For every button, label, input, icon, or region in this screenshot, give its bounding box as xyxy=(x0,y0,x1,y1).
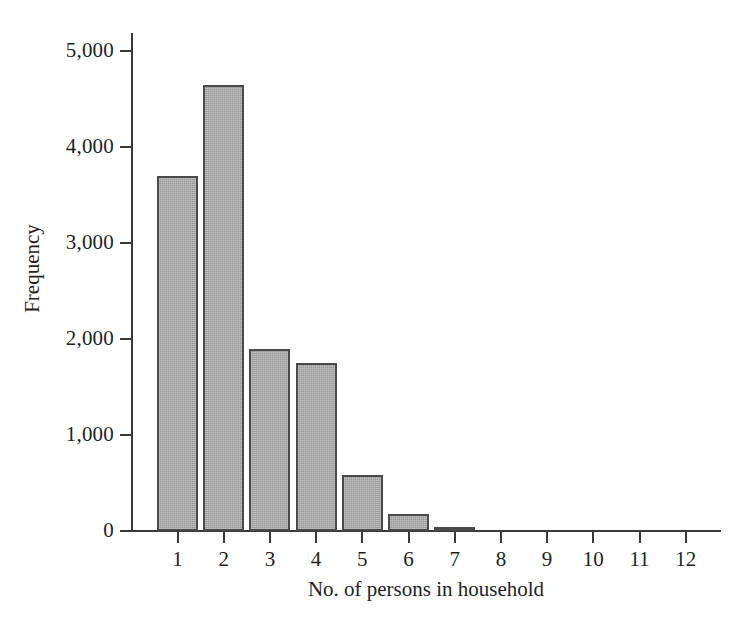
y-axis-tick-label: 2,000 xyxy=(0,328,114,349)
x-axis-tick xyxy=(223,532,225,543)
x-axis-tick-label: 2 xyxy=(199,548,249,570)
y-axis-tick xyxy=(120,146,131,148)
x-axis-tick-label: 7 xyxy=(430,548,480,570)
y-axis-tick xyxy=(120,242,131,244)
y-axis-tick xyxy=(120,434,131,436)
y-axis-tick-label: 1,000 xyxy=(0,424,114,445)
x-axis-tick-label: 8 xyxy=(476,548,526,570)
y-axis-tick-label: 5,000 xyxy=(0,40,114,61)
x-axis-tick-label: 12 xyxy=(661,548,711,570)
x-axis-tick xyxy=(315,532,317,543)
x-axis-tick xyxy=(454,532,456,543)
y-axis-tick-label: 4,000 xyxy=(0,136,114,157)
x-axis-tick xyxy=(408,532,410,543)
x-axis-title: No. of persons in household xyxy=(131,578,721,600)
x-axis-tick xyxy=(546,532,548,543)
x-axis-tick-label: 1 xyxy=(153,548,203,570)
y-axis-title: Frequency xyxy=(22,199,43,339)
x-axis-tick xyxy=(177,532,179,543)
bar xyxy=(296,363,337,531)
y-axis-tick xyxy=(120,338,131,340)
y-axis-tick xyxy=(120,530,131,532)
y-axis-tick-label: 0 xyxy=(0,520,114,541)
x-axis-tick-label: 9 xyxy=(522,548,572,570)
bar xyxy=(249,349,290,531)
x-axis-tick xyxy=(685,532,687,543)
x-axis-tick xyxy=(361,532,363,543)
bar xyxy=(157,176,198,531)
frequency-bar-chart: 01,0002,0003,0004,0005,000 Frequency 123… xyxy=(0,0,733,621)
y-axis-tick-labels: 01,0002,0003,0004,0005,000 xyxy=(0,0,114,621)
x-axis-tick xyxy=(500,532,502,543)
x-axis-tick xyxy=(592,532,594,543)
x-axis-tick xyxy=(639,532,641,543)
y-axis-line xyxy=(131,33,133,532)
bar xyxy=(388,514,429,531)
x-axis-tick-label: 4 xyxy=(291,548,341,570)
x-axis-tick-label: 10 xyxy=(568,548,618,570)
x-axis-tick-label: 11 xyxy=(615,548,665,570)
y-axis-tick-label: 3,000 xyxy=(0,232,114,253)
x-axis-tick xyxy=(269,532,271,543)
bar xyxy=(203,85,244,531)
bar xyxy=(342,475,383,531)
y-axis-tick xyxy=(120,50,131,52)
x-axis-tick-label: 6 xyxy=(384,548,434,570)
bar xyxy=(434,527,475,531)
x-axis-tick-label: 3 xyxy=(245,548,295,570)
x-axis-tick-label: 5 xyxy=(337,548,387,570)
